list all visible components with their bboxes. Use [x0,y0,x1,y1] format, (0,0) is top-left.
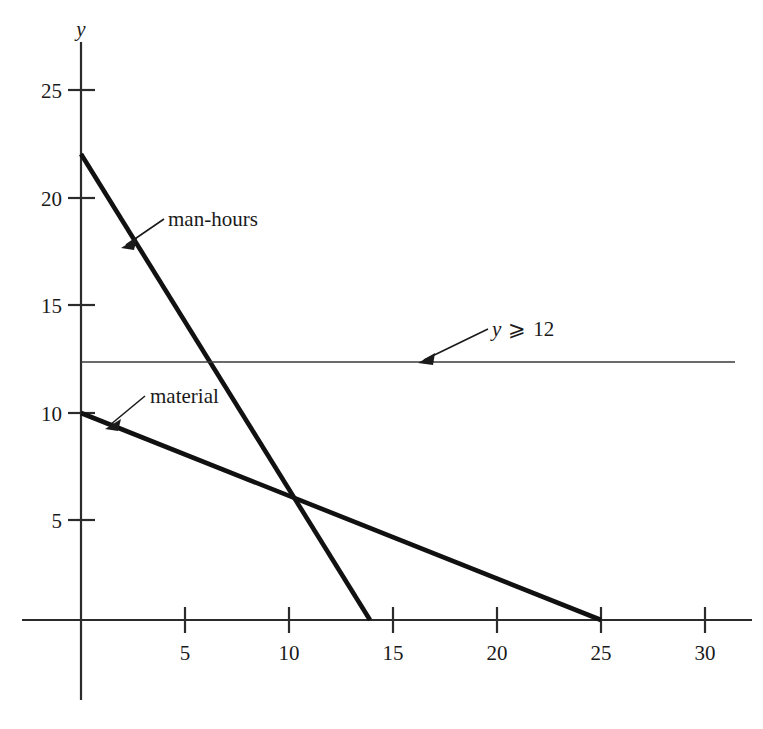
y-tick-label-20: 20 [41,187,62,211]
y-constraint-arrow-head [418,353,435,365]
x-tick-label-30: 30 [695,641,716,665]
material-annotation: material [105,384,219,431]
y-constraint-label: y⩾12 [490,317,554,341]
y-tick-label-15: 15 [41,294,62,318]
y-tick-label-10: 10 [41,402,62,426]
x-tick-label-25: 25 [591,641,612,665]
annotations-group: man-hours material y⩾12 [105,207,554,431]
x-tick-label-10: 10 [279,641,300,665]
y-tick-labels-group: 5 10 15 20 25 [41,79,62,533]
man-hours-annotation: man-hours [121,207,258,250]
y-axis-label: y [74,17,86,41]
x-tick-label-5: 5 [180,641,191,665]
x-tick-labels-group: 5 10 15 20 25 30 [180,641,716,665]
y-tick-label-5: 5 [52,509,63,533]
y-constraint-value: 12 [533,317,554,341]
man-hours-arrow-head [121,238,137,250]
linear-programming-chart: y 5 10 15 20 25 30 [0,0,763,729]
axes-group: y [22,17,752,700]
x-tick-label-20: 20 [487,641,508,665]
material-leader-line [110,396,145,425]
y-constraint-annotation: y⩾12 [418,317,554,365]
man-hours-label: man-hours [168,207,258,231]
material-label: material [150,384,219,408]
series-line-material [81,413,601,620]
y-constraint-variable: y [490,317,502,341]
y-tick-label-25: 25 [41,79,62,103]
y-constraint-operator: ⩾ [508,317,526,341]
x-tick-label-15: 15 [383,641,404,665]
chart-figure: y 5 10 15 20 25 30 [0,0,763,729]
